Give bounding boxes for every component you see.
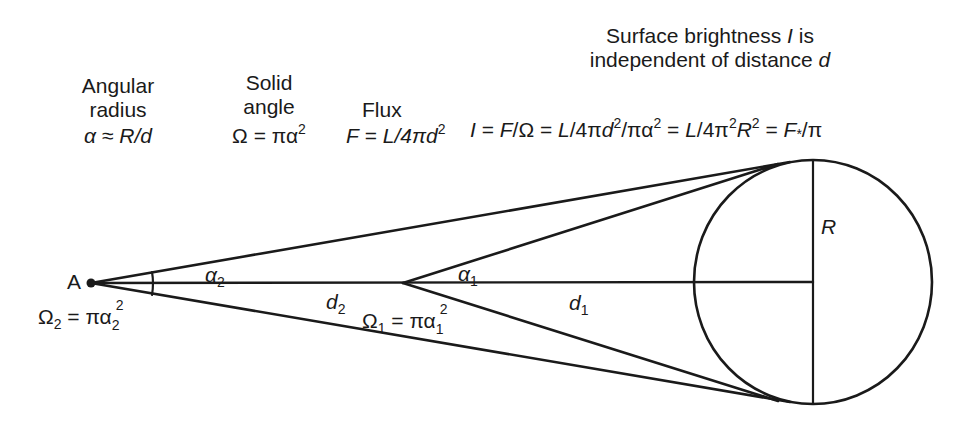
angle-arc-alpha2	[152, 272, 153, 295]
flux-formula: F = L/4πd2	[346, 124, 446, 148]
angular-radius-formula: α ≈ R/d	[49, 124, 187, 148]
point-a-label: A	[67, 270, 81, 294]
solid-angle-heading: Solid angle Ω = πα2	[214, 71, 324, 148]
solid-angle-formula: Ω = πα2	[214, 124, 324, 148]
line-of-sight-axis	[91, 282, 813, 283]
cone-line-bottom-near	[403, 283, 778, 401]
surface-brightness-line1: Surface brightness I is	[540, 24, 880, 48]
d1-label: d1	[569, 291, 588, 315]
observer-point-a	[87, 279, 96, 288]
solid-angle-line1: Solid	[214, 71, 324, 95]
alpha1-label: α1	[458, 262, 478, 286]
omega1-label: Ω1 = πα12	[362, 309, 448, 333]
surface-brightness-heading: Surface brightness I is independent of d…	[540, 24, 880, 72]
omega2-label: Ω2 = πα22	[38, 305, 124, 329]
radius-label: R	[821, 215, 836, 239]
flux-heading: Flux F = L/4πd2	[346, 98, 446, 148]
angular-radius-heading: Angular radius α ≈ R/d	[49, 74, 187, 148]
surface-brightness-line2: independent of distance d	[540, 48, 880, 72]
cone-line-top-far	[91, 162, 790, 283]
alpha2-label: α2	[205, 263, 225, 287]
surface-brightness-formula: I = F/Ω = L/4πd2/πα2 = L/4π2R2 = F*/π	[470, 118, 822, 142]
flux-line1: Flux	[346, 98, 446, 122]
d2-label: d2	[326, 290, 345, 314]
angular-radius-line1: Angular	[49, 74, 187, 98]
solid-angle-line2: angle	[214, 95, 324, 119]
angular-radius-line2: radius	[49, 98, 187, 122]
